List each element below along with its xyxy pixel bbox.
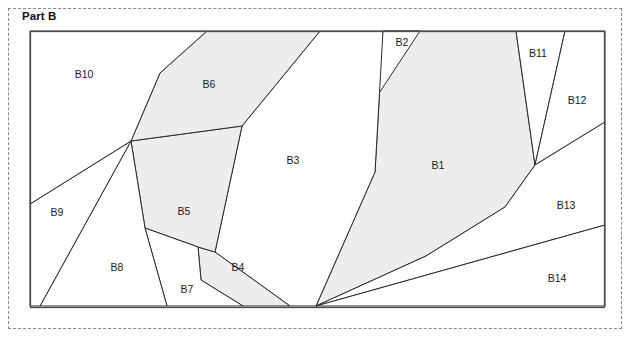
region-label-b13: B13 — [557, 199, 576, 211]
region-label-b8: B8 — [111, 261, 124, 273]
partition-diagram: B1B2B3B4B5B6B7B8B9B10B11B12B13B14 — [0, 0, 630, 337]
figure-page: Part B B1B2B3B4B5B6B7B8B9B10B11B12B13B14 — [0, 0, 630, 337]
region-label-b6: B6 — [203, 78, 216, 90]
region-label-b9: B9 — [51, 206, 64, 218]
region-label-b14: B14 — [548, 272, 567, 284]
region-label-b12: B12 — [568, 94, 587, 106]
region-label-b11: B11 — [529, 47, 547, 59]
region-label-b4: B4 — [232, 261, 245, 273]
region-label-b3: B3 — [287, 154, 300, 166]
region-label-b7: B7 — [181, 283, 194, 295]
region-label-b2: B2 — [396, 36, 409, 48]
region-label-b10: B10 — [75, 68, 94, 80]
region-label-b5: B5 — [178, 205, 191, 217]
region-label-b1: B1 — [432, 159, 445, 171]
